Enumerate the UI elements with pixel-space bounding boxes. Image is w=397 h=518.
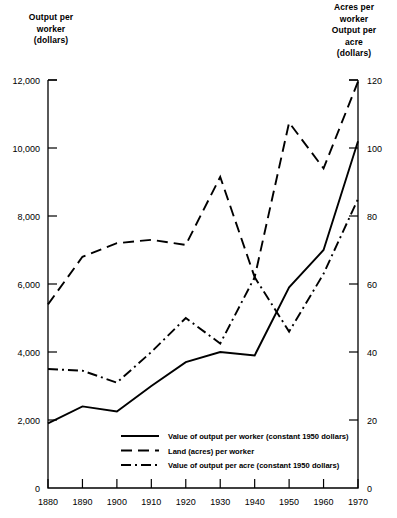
left-tick-label: 4,000 xyxy=(17,348,40,358)
right-axis-ticks: 020406080100120 xyxy=(349,76,382,494)
right-tick-label: 100 xyxy=(367,144,382,154)
legend-label: Value of output per acre (constant 1950 … xyxy=(168,461,340,470)
x-tick-label: 1890 xyxy=(72,497,92,507)
axis-frame xyxy=(48,80,358,488)
x-tick-label: 1900 xyxy=(107,497,127,507)
x-tick-label: 1920 xyxy=(176,497,196,507)
series-line xyxy=(48,141,358,423)
right-tick-label: 0 xyxy=(367,484,372,494)
right-tick-label: 120 xyxy=(367,76,382,86)
legend-label: Land (acres) per worker xyxy=(168,447,254,456)
left-axis-ticks: 02,0004,0006,0008,00010,00012,000 xyxy=(12,76,57,494)
x-axis-ticks: 1880189019001910192019301940195019601970 xyxy=(38,479,368,507)
right-tick-label: 40 xyxy=(367,348,377,358)
left-tick-label: 10,000 xyxy=(12,144,40,154)
right-tick-label: 60 xyxy=(367,280,377,290)
left-tick-label: 6,000 xyxy=(17,280,40,290)
x-tick-label: 1930 xyxy=(210,497,230,507)
x-tick-label: 1970 xyxy=(348,497,368,507)
left-tick-label: 0 xyxy=(35,484,40,494)
line-chart: 02,0004,0006,0008,00010,00012,000 020406… xyxy=(0,0,397,518)
right-tick-label: 80 xyxy=(367,212,377,222)
series-line xyxy=(48,199,358,383)
chart-figure: Output per worker (dollars) Acres per wo… xyxy=(0,0,397,518)
data-series-group xyxy=(48,82,358,424)
x-tick-label: 1910 xyxy=(141,497,161,507)
legend-label: Value of output per worker (constant 195… xyxy=(168,432,349,441)
axis-border xyxy=(48,80,358,488)
x-tick-label: 1940 xyxy=(245,497,265,507)
left-tick-label: 2,000 xyxy=(17,416,40,426)
left-tick-label: 8,000 xyxy=(17,212,40,222)
left-tick-label: 12,000 xyxy=(12,76,40,86)
chart-legend: Value of output per worker (constant 195… xyxy=(121,432,349,470)
series-line xyxy=(48,82,358,305)
x-tick-label: 1960 xyxy=(314,497,334,507)
x-tick-label: 1950 xyxy=(279,497,299,507)
right-tick-label: 20 xyxy=(367,416,377,426)
x-tick-label: 1880 xyxy=(38,497,58,507)
